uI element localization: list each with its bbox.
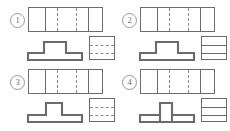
top-view-hidden-edge (188, 8, 189, 31)
side-view-hidden-edge (90, 115, 114, 116)
option-2-number: 2 (122, 13, 137, 28)
option-3-top-view (28, 69, 103, 94)
side-view-hidden-edge (90, 45, 114, 46)
option-1-front-view (26, 35, 84, 61)
option-4[interactable]: 4 (116, 66, 228, 126)
side-view-visible-edge (202, 45, 226, 46)
top-view-hidden-edge (169, 70, 170, 93)
option-3-number: 3 (10, 75, 25, 90)
top-view-hidden-edge (76, 70, 77, 93)
side-view-visible-edge (202, 53, 226, 54)
side-view-hidden-edge (90, 53, 114, 54)
option-4-side-view (201, 98, 227, 122)
front-view-profile-outline (28, 103, 82, 122)
top-view-hidden-edge (57, 8, 58, 31)
figure-sheet: 1234 (0, 0, 230, 131)
side-view-visible-edge (202, 115, 226, 116)
option-4-number: 4 (122, 75, 137, 90)
top-view-visible-edge (88, 70, 89, 93)
side-view-visible-edge (202, 107, 226, 108)
option-1-number: 1 (10, 13, 25, 28)
top-view-visible-edge (157, 70, 158, 93)
option-4-front-view (138, 97, 196, 123)
option-3-side-view (89, 98, 115, 122)
option-1-side-view (89, 36, 115, 60)
top-view-hidden-edge (76, 8, 77, 31)
top-view-hidden-edge (188, 70, 189, 93)
front-view-profile-outline (140, 103, 194, 122)
top-view-visible-edge (157, 8, 158, 31)
option-2-top-view (140, 7, 215, 32)
option-1[interactable]: 1 (4, 4, 116, 64)
top-view-visible-edge (88, 8, 89, 31)
option-2-front-view (138, 35, 196, 61)
top-view-hidden-edge (169, 8, 170, 31)
option-3[interactable]: 3 (4, 66, 116, 126)
front-view-profile-outline (140, 42, 194, 60)
option-2[interactable]: 2 (116, 4, 228, 64)
front-view-profile-outline (28, 42, 82, 60)
top-view-visible-edge (200, 70, 201, 93)
top-view-visible-edge (200, 8, 201, 31)
top-view-hidden-edge (57, 70, 58, 93)
option-1-top-view (28, 7, 103, 32)
top-view-visible-edge (45, 8, 46, 31)
option-4-top-view (140, 69, 215, 94)
side-view-hidden-edge (90, 107, 114, 108)
top-view-visible-edge (45, 70, 46, 93)
option-3-front-view (26, 97, 84, 123)
option-2-side-view (201, 36, 227, 60)
